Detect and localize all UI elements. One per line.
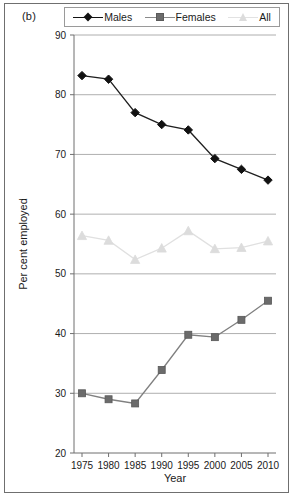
datapoint-females-1980: [105, 396, 112, 403]
axis-ticks: [70, 35, 268, 457]
series-females: [79, 297, 272, 407]
x-tick-label-2005: 2005: [230, 460, 253, 471]
x-tick-label-1975: 1975: [71, 460, 94, 471]
x-tick-label-2000: 2000: [204, 460, 227, 471]
datapoint-females-2000: [211, 334, 218, 341]
series-males: [78, 71, 272, 184]
y-tick-label-70: 70: [55, 149, 67, 160]
datapoint-all-1990: [157, 244, 166, 253]
y-axis-title: Per cent employed: [17, 198, 29, 290]
data-series-layer: [77, 71, 272, 407]
datapoint-females-1985: [132, 400, 139, 407]
y-tick-label-90: 90: [55, 30, 67, 41]
chart-svg: 2030405060708090 19751980198519901995200…: [0, 0, 293, 497]
y-tick-label-30: 30: [55, 388, 67, 399]
datapoint-females-2005: [238, 316, 245, 323]
y-tick-label-60: 60: [55, 209, 67, 220]
datapoint-males-2010: [264, 176, 272, 184]
y-tick-label-40: 40: [55, 328, 67, 339]
x-tick-label-1995: 1995: [177, 460, 200, 471]
figure-panel-b: (b) Males Females All: [0, 0, 293, 497]
x-tick-label-1980: 1980: [97, 460, 120, 471]
plot-area: 2030405060708090 19751980198519901995200…: [0, 0, 285, 490]
x-axis-title: Year: [164, 472, 187, 484]
datapoint-males-2005: [237, 165, 245, 173]
y-tick-label-80: 80: [55, 89, 67, 100]
x-tick-label-2010: 2010: [257, 460, 280, 471]
datapoint-females-1975: [79, 390, 86, 397]
y-tick-labels: 2030405060708090: [55, 30, 67, 459]
datapoint-all-1995: [184, 226, 193, 235]
datapoint-males-1990: [158, 120, 166, 128]
series-line-males: [82, 76, 268, 181]
datapoint-females-2010: [265, 297, 272, 304]
x-tick-label-1990: 1990: [151, 460, 174, 471]
datapoint-all-1985: [131, 255, 140, 264]
datapoint-females-1990: [158, 366, 165, 373]
x-tick-labels: 19751980198519901995200020052010: [71, 460, 280, 471]
datapoint-males-1975: [78, 71, 86, 79]
x-tick-label-1985: 1985: [124, 460, 147, 471]
gridlines: [74, 35, 276, 393]
datapoint-all-1975: [77, 231, 86, 240]
y-tick-label-20: 20: [55, 448, 67, 459]
series-all: [77, 226, 272, 263]
y-tick-label-50: 50: [55, 268, 67, 279]
datapoint-all-2010: [263, 236, 272, 245]
datapoint-females-1995: [185, 331, 192, 338]
